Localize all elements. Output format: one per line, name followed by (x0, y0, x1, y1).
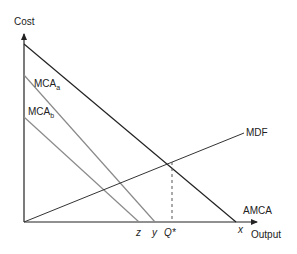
cost-output-diagram: Cost Output MCAa MCAb MDF AMCA z y Q* x (0, 0, 297, 254)
tick-z: z (135, 227, 141, 238)
mca-b-label: MCAb (28, 106, 54, 119)
mdf-label: MDF (246, 127, 268, 138)
amca-label: AMCA (243, 205, 272, 216)
y-axis-label: Cost (14, 16, 35, 27)
tick-q-star: Q* (164, 227, 177, 238)
mca-a-line (24, 75, 155, 222)
mca-a-label: MCAa (34, 78, 60, 91)
mca-b-line (24, 117, 139, 222)
x-axis-label: Output (251, 229, 281, 240)
amca-line (24, 44, 236, 222)
tick-x: x (237, 224, 244, 235)
tick-y: y (151, 227, 158, 238)
